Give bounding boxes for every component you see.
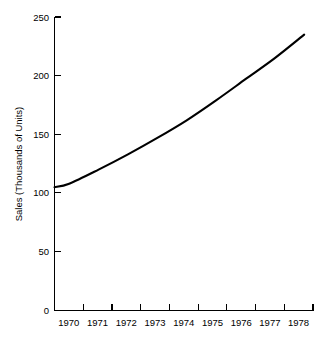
x-tick-label: 1978 <box>288 317 309 328</box>
y-tick-label: 150 <box>33 129 49 140</box>
y-tick-label: 250 <box>33 12 49 23</box>
x-tick-label: 1977 <box>259 317 280 328</box>
x-tick-label: 1976 <box>231 317 252 328</box>
chart-canvas: 250 200 150 100 50 0 1970 1971 1972 1973 <box>0 0 325 352</box>
x-tick-label: 1973 <box>144 317 165 328</box>
line-chart: 250 200 150 100 50 0 1970 1971 1972 1973 <box>0 0 325 352</box>
y-tick-label: 0 <box>44 305 49 316</box>
y-tick-label: 100 <box>33 187 49 198</box>
x-tick-label: 1971 <box>87 317 108 328</box>
y-tick-label: 200 <box>33 70 49 81</box>
x-tick-label: 1970 <box>58 317 79 328</box>
y-tick-label: 50 <box>38 246 49 257</box>
chart-background <box>0 0 325 352</box>
x-axis-tick-labels: 1970 1971 1972 1973 1974 1975 1976 1977 … <box>58 317 309 328</box>
y-axis-title: Sales (Thousands of Units) <box>13 107 24 222</box>
x-tick-label: 1975 <box>202 317 223 328</box>
x-tick-label: 1974 <box>173 317 194 328</box>
x-tick-label: 1972 <box>116 317 137 328</box>
